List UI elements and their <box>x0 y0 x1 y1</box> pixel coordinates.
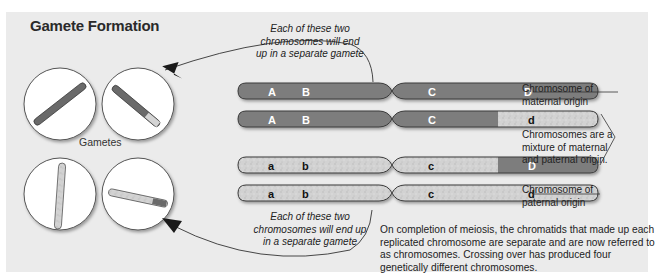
svg-text:A: A <box>268 86 276 98</box>
svg-text:c: c <box>428 160 434 172</box>
label-mixture: Chromosomes are a mixture of maternal an… <box>522 129 613 167</box>
svg-text:b: b <box>302 188 309 200</box>
svg-text:A: A <box>268 114 276 126</box>
caption: On completion of meiosis, the chromatids… <box>380 224 655 274</box>
label-maternal: Chromosome of maternal origin <box>522 83 593 108</box>
top-note: Each of these two chromosomes will end u… <box>245 23 375 61</box>
bottom-note: Each of these two chromosomes will end u… <box>240 211 380 249</box>
svg-text:a: a <box>268 160 275 172</box>
gametes-label: Gametes <box>79 136 122 148</box>
svg-text:c: c <box>428 188 434 200</box>
svg-text:B: B <box>302 114 310 126</box>
chromosome-recombinant-1 <box>238 111 598 127</box>
svg-text:d: d <box>528 114 535 126</box>
svg-text:b: b <box>302 160 309 172</box>
svg-text:a: a <box>268 188 275 200</box>
label-paternal: Chromosome of paternal origin <box>522 184 593 209</box>
svg-text:B: B <box>302 86 310 98</box>
svg-text:C: C <box>428 114 436 126</box>
svg-text:C: C <box>428 86 436 98</box>
